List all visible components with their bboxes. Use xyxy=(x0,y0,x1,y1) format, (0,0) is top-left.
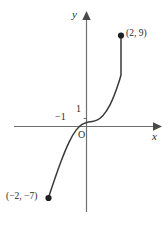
point-label-lower-left: (−2, −7) xyxy=(6,192,37,202)
x-axis-label: x xyxy=(152,131,157,142)
origin-label: O xyxy=(78,130,85,140)
point-label-upper-right: (2, 9) xyxy=(126,29,147,39)
point-marker-upper-right xyxy=(118,32,124,38)
graph-figure: y x 1 −1 O (2, 9) (−2, −7) xyxy=(0,0,168,225)
y-intercept-label: 1 xyxy=(76,104,81,114)
y-axis-arrowhead xyxy=(82,11,90,20)
x-intercept-label: −1 xyxy=(55,112,66,122)
point-marker-lower-left xyxy=(45,195,51,201)
y-axis-label: y xyxy=(72,9,77,20)
